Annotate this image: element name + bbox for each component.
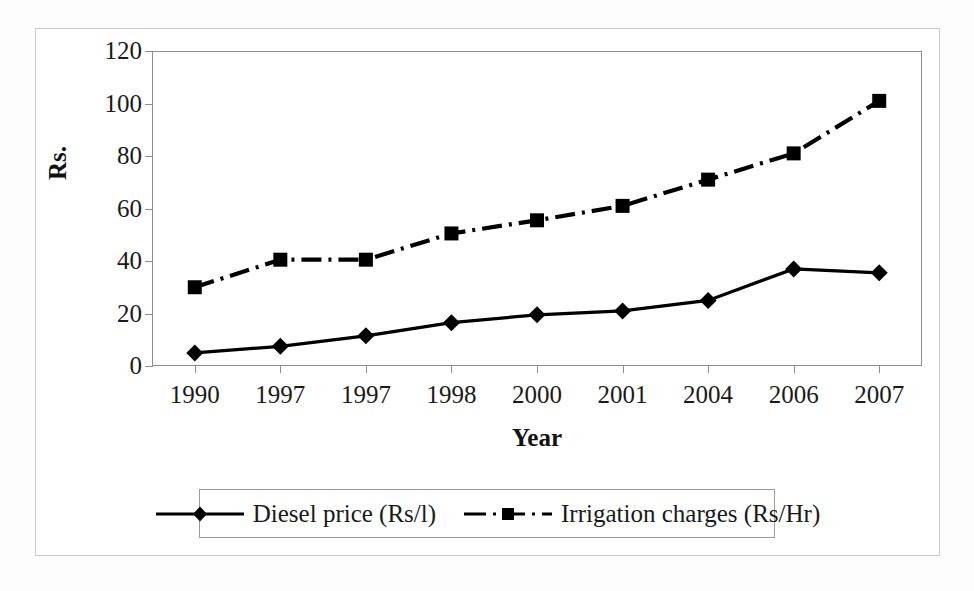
diamond-marker [614, 302, 631, 319]
diamond-marker [443, 314, 460, 331]
diamond-marker [529, 306, 546, 323]
square-marker [872, 94, 886, 108]
square-marker [273, 253, 287, 267]
diamond-marker [871, 264, 888, 281]
x-tick-mark [451, 366, 452, 373]
x-tick-mark [879, 366, 880, 373]
y-tick-mark [145, 366, 153, 367]
diamond-marker [785, 260, 802, 277]
x-tick-label: 1998 [406, 382, 496, 407]
y-tick-label: 120 [84, 38, 142, 63]
x-tick-mark [708, 366, 709, 373]
y-tick-label: 80 [84, 143, 142, 168]
y-tick-label: 0 [84, 353, 142, 378]
square-marker [359, 253, 373, 267]
diamond-marker [186, 344, 203, 361]
series-line [195, 101, 879, 287]
diamond-marker [272, 338, 289, 355]
x-tick-label: 1990 [150, 382, 240, 407]
x-tick-mark [623, 366, 624, 373]
square-marker [616, 199, 630, 213]
x-tick-label: 2006 [749, 382, 839, 407]
x-tick-label: 2004 [663, 382, 753, 407]
square-marker [530, 213, 544, 227]
square-marker [787, 146, 801, 160]
x-tick-mark [794, 366, 795, 373]
series-canvas [152, 51, 922, 366]
x-tick-label: 2007 [834, 382, 924, 407]
x-tick-mark [280, 366, 281, 373]
square-marker-icon [462, 503, 554, 525]
square-marker [444, 226, 458, 240]
legend-label-diesel: Diesel price (Rs/l) [253, 500, 436, 528]
x-tick-mark [537, 366, 538, 373]
diamond-marker-icon [154, 503, 246, 525]
square-marker [188, 280, 202, 294]
x-tick-label: 2000 [492, 382, 582, 407]
x-tick-label: 1997 [235, 382, 325, 407]
x-tick-mark [195, 366, 196, 373]
y-tick-label: 60 [84, 196, 142, 221]
legend-item-irrigation: Irrigation charges (Rs/Hr) [462, 500, 820, 528]
y-tick-label: 20 [84, 301, 142, 326]
y-tick-label: 100 [84, 91, 142, 116]
chart-figure: Rs. 020406080100120 19901997199719982000… [0, 0, 974, 591]
square-marker [701, 173, 715, 187]
x-axis-title: Year [152, 424, 922, 452]
legend-item-diesel: Diesel price (Rs/l) [154, 500, 436, 528]
x-tick-label: 2001 [578, 382, 668, 407]
diamond-marker [357, 327, 374, 344]
x-tick-label: 1997 [321, 382, 411, 407]
chart-legend: Diesel price (Rs/l) Irrigation charges (… [199, 489, 775, 538]
y-tick-label: 40 [84, 248, 142, 273]
legend-label-irrigation: Irrigation charges (Rs/Hr) [561, 500, 820, 528]
diamond-marker [700, 292, 717, 309]
x-tick-mark [366, 366, 367, 373]
y-axis-title: Rs. [44, 146, 72, 180]
